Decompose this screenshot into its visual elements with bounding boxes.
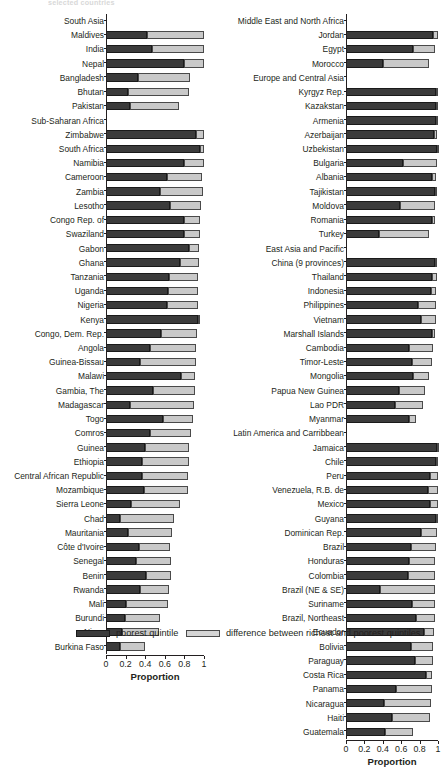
row-plot-area [106,398,204,412]
stacked-bar [346,273,437,281]
bar-segment-poorest-quintile [106,372,181,380]
country-bar-row: Cambodia [222,341,444,355]
country-label: Cambodia [306,341,344,355]
country-bar-row: Jordan [222,28,444,42]
stacked-bar [106,145,204,153]
country-label: Kyrgyz Rep. [298,85,344,99]
country-label: Bhutan [77,85,104,99]
country-label: Cameroon [65,170,104,184]
row-plot-area [346,256,438,270]
stacked-bar [106,59,204,67]
row-plot-area [106,554,204,568]
bar-segment-difference [432,173,437,181]
country-bar-row: Mozambique [0,483,222,497]
stacked-bar [106,472,188,480]
country-label: Comros [75,426,104,440]
bar-segment-difference [392,713,430,721]
row-plot-area [106,42,204,56]
region-label: South Asia [64,14,104,28]
country-label: Brazil [323,540,344,554]
country-label: Tanzania [70,270,104,284]
row-plot-area [346,85,438,99]
country-bar-row: Thailand [222,270,444,284]
country-bar-row: Brazil [222,540,444,554]
bar-segment-poorest-quintile [346,656,415,664]
country-label: Bolivia [319,640,344,654]
bar-segment-poorest-quintile [346,130,434,138]
country-label: Madagascar [58,398,104,412]
country-bar-row: Tanzania [0,270,222,284]
row-plot-area [106,611,204,625]
country-label: Congo, Dem. Rep. [35,327,104,341]
bar-segment-poorest-quintile [106,401,130,409]
country-label: Nepal [82,57,104,71]
stacked-bar [106,500,180,508]
country-bar-row: Albania [222,170,444,184]
row-plot-area [106,313,204,327]
row-plot-area [106,71,204,85]
stacked-bar [346,116,438,124]
country-bar-row: South Africa [0,142,222,156]
row-plot-area [106,156,204,170]
country-label: Dominican Rep. [284,526,344,540]
x-axis-tick-label: 0.6 [159,659,171,669]
bar-segment-difference [408,571,436,579]
row-plot-area [346,14,438,28]
row-plot-area [346,384,438,398]
row-plot-area [346,469,438,483]
row-plot-area [346,99,438,113]
bar-segment-difference [200,145,204,153]
country-label: Uzbekistan [303,142,344,156]
stacked-bar [106,557,171,565]
row-plot-area [106,242,204,256]
row-plot-area [346,398,438,412]
bar-segment-difference [436,457,438,465]
country-label: Congo Rep. of [50,213,104,227]
country-bar-row: Venezuela, R.B. de [222,483,444,497]
stacked-bar [346,614,435,622]
stacked-bar [346,685,432,693]
region-label: Middle East and North Africa [238,14,344,28]
bar-segment-poorest-quintile [106,301,167,309]
country-label: Burkina Faso [55,640,104,654]
bar-segment-difference [196,130,204,138]
stacked-bar [106,372,195,380]
row-plot-area [346,355,438,369]
bar-segment-poorest-quintile [346,116,436,124]
country-bar-row: Maldives [0,28,222,42]
bar-segment-poorest-quintile [346,159,403,167]
country-label: Rwanda [73,583,104,597]
country-bar-row: Congo, Dem. Rep. [0,327,222,341]
country-label: South Africa [59,142,104,156]
stacked-bar [106,31,204,39]
bar-segment-poorest-quintile [346,713,392,721]
bar-segment-difference [198,315,200,323]
bar-segment-poorest-quintile [106,642,120,650]
country-bar-row: Costa Rica [222,668,444,682]
country-bar-row: Haiti [222,711,444,725]
country-bar-row: Côte d'Ivoire [0,540,222,554]
stacked-bar [346,88,438,96]
country-label: Gambia, The [56,384,104,398]
stacked-bar [106,329,197,337]
bar-segment-difference [432,273,437,281]
bar-segment-poorest-quintile [106,543,139,551]
stacked-bar [346,301,436,309]
country-bar-row: Turkey [222,227,444,241]
bar-segment-difference [430,500,438,508]
x-axis-tick-label: 0.4 [377,744,389,754]
country-label: Jamaica [313,441,344,455]
row-plot-area [106,128,204,142]
row-plot-area [346,57,438,71]
country-bar-row: Egypt [222,42,444,56]
country-label: Philippines [303,298,344,312]
country-label: Venezuela, R.B. de [272,483,344,497]
country-label: Nigeria [77,298,104,312]
country-label: Albania [316,170,344,184]
x-axis-tick-label: 1 [202,659,207,669]
row-plot-area [346,697,438,711]
country-bar-row: Guatemala [222,725,444,739]
row-plot-area [346,28,438,42]
row-plot-area [346,412,438,426]
